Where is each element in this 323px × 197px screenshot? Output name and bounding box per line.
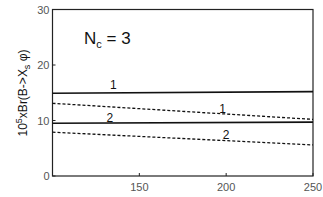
- x-tick-label: 150: [130, 181, 148, 193]
- series-line: [53, 132, 314, 145]
- curve-label: 2: [106, 111, 113, 125]
- y-tick-label: 10: [37, 115, 49, 127]
- y-tick-label: 20: [37, 59, 49, 71]
- x-tick-label: 250: [304, 181, 322, 193]
- series-line: [53, 92, 314, 94]
- curve-label: 1: [219, 102, 226, 116]
- nc-annotation: Nc = 3: [84, 29, 131, 50]
- curve-label: 2: [223, 128, 230, 142]
- y-tick-label: 0: [43, 170, 49, 182]
- series-line: [53, 103, 314, 119]
- y-axis-label: 105xBr(B->Xs φ): [14, 49, 32, 136]
- chart: 105xBr(B->Xs φ) 0102030 150200250 1122 N…: [0, 0, 323, 197]
- y-tick-label: 30: [37, 4, 49, 16]
- curve-label: 1: [110, 78, 117, 92]
- svg-text:105xBr(B->Xs φ): 105xBr(B->Xs φ): [14, 49, 32, 136]
- series-line: [53, 122, 314, 123]
- x-tick-label: 200: [217, 181, 235, 193]
- series-lines: [53, 92, 314, 145]
